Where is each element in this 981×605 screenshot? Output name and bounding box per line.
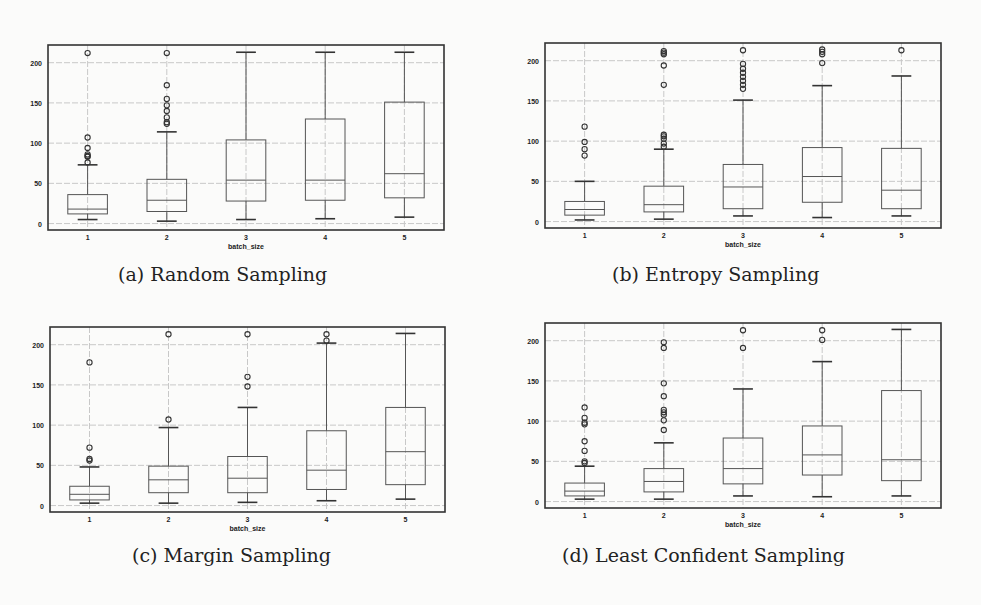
y-tick-label: 100 — [32, 422, 44, 429]
y-tick-label: 50 — [34, 180, 42, 187]
x-tick-label: 5 — [899, 232, 903, 239]
x-tick-label: 3 — [246, 516, 250, 523]
caption-c: (c) Margin Sampling — [132, 544, 331, 566]
x-axis-label: batch_size — [725, 521, 761, 528]
y-tick-label: 200 — [32, 342, 44, 349]
box-batch-1 — [68, 50, 108, 219]
x-axis-label: batch_size — [725, 241, 761, 248]
panel-c: 05010015020012345batch_size (c) Margin S… — [0, 282, 490, 605]
y-tick-label: 150 — [32, 382, 44, 389]
y-tick-label: 150 — [527, 378, 539, 385]
x-tick-label: 4 — [325, 516, 329, 523]
panel-b: 05010015020012345batch_size (b) Entropy … — [490, 0, 981, 300]
panel-d: 05010015020012345batch_size (d) Least Co… — [490, 278, 981, 605]
y-tick-label: 100 — [527, 418, 539, 425]
box-batch-2 — [149, 332, 189, 504]
y-tick-label: 0 — [38, 221, 42, 228]
y-tick-label: 0 — [535, 219, 539, 226]
boxplot-least-confident-sampling: 05010015020012345batch_size — [490, 278, 981, 528]
y-tick-label: 200 — [527, 58, 539, 65]
boxplot-entropy-sampling: 05010015020012345batch_size — [490, 0, 981, 250]
x-tick-label: 1 — [88, 516, 92, 523]
y-tick-label: 100 — [527, 138, 539, 145]
x-tick-label: 1 — [583, 512, 587, 519]
y-tick-label: 150 — [527, 98, 539, 105]
y-tick-label: 100 — [30, 140, 42, 147]
x-tick-label: 3 — [244, 234, 248, 241]
panel-a: 05010015020012345batch_size (a) Random S… — [0, 0, 490, 300]
y-tick-label: 200 — [527, 338, 539, 345]
x-tick-label: 1 — [583, 232, 587, 239]
y-tick-label: 200 — [30, 60, 42, 67]
x-tick-label: 5 — [404, 516, 408, 523]
x-axis-label: batch_size — [230, 525, 266, 532]
x-tick-label: 3 — [741, 512, 745, 519]
y-tick-label: 150 — [30, 100, 42, 107]
x-tick-label: 2 — [662, 232, 666, 239]
y-tick-label: 0 — [40, 503, 44, 510]
y-tick-label: 50 — [36, 462, 44, 469]
x-tick-label: 4 — [820, 512, 824, 519]
box-batch-2 — [147, 50, 187, 221]
x-tick-label: 2 — [165, 234, 169, 241]
x-tick-label: 2 — [167, 516, 171, 523]
x-tick-label: 5 — [402, 234, 406, 241]
x-tick-label: 3 — [741, 232, 745, 239]
y-tick-label: 0 — [535, 499, 539, 506]
y-tick-label: 50 — [531, 458, 539, 465]
x-tick-label: 2 — [662, 512, 666, 519]
y-tick-label: 50 — [531, 178, 539, 185]
x-tick-label: 5 — [899, 512, 903, 519]
x-tick-label: 1 — [86, 234, 90, 241]
boxplot-random-sampling: 05010015020012345batch_size — [0, 0, 490, 250]
x-axis-label: batch_size — [228, 243, 264, 250]
boxplot-margin-sampling: 05010015020012345batch_size — [0, 282, 490, 532]
caption-d: (d) Least Confident Sampling — [562, 544, 845, 566]
x-tick-label: 4 — [323, 234, 327, 241]
box-batch-2 — [644, 48, 684, 219]
x-tick-label: 4 — [820, 232, 824, 239]
